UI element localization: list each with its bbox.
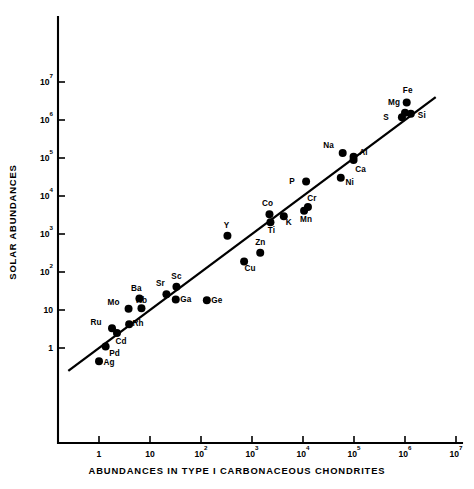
data-point-label-zn: Zn: [255, 238, 265, 247]
data-point-mg: [401, 109, 409, 117]
data-point-ba: [135, 295, 143, 303]
y-tick-exponent: 2: [50, 262, 54, 269]
data-point-rb: [137, 304, 145, 312]
data-points: AgPdCdRuRhMoRbBaSrScGaGeCuZnYTiCoKMnCrPN…: [90, 86, 425, 367]
y-tick-label: 105: [40, 148, 54, 164]
data-point-label-cd: Cd: [115, 337, 126, 346]
x-tick-label: 103: [245, 444, 259, 460]
data-point-label-mo: Mo: [108, 298, 120, 307]
y-axis-title: SOLAR ABUNDANCES: [7, 164, 18, 279]
y-tick-exponent: 3: [50, 224, 54, 231]
y-tick-exponent: 5: [50, 148, 54, 155]
axis-frame: [58, 17, 462, 443]
data-point-mo: [125, 305, 133, 313]
data-point-sr: [162, 290, 170, 298]
data-point-zn: [256, 249, 264, 257]
x-tick-exponent: 7: [459, 444, 463, 451]
data-point-label-ba: Ba: [131, 284, 142, 293]
data-point-label-sc: Sc: [171, 272, 182, 281]
data-point-fe: [403, 98, 411, 106]
y-tick-label: 103: [40, 224, 54, 240]
data-point-label-s: S: [383, 113, 389, 122]
data-point-p: [302, 178, 310, 186]
y-tick-label: 106: [40, 110, 54, 126]
data-point-cr: [304, 203, 312, 211]
data-point-y: [223, 232, 231, 240]
data-point-sc: [172, 283, 180, 291]
data-point-label-fe: Fe: [403, 86, 413, 95]
data-point-label-ge: Ge: [211, 296, 222, 305]
x-tick-exponent: 4: [306, 444, 310, 451]
x-tick-label: 104: [296, 444, 310, 460]
data-point-ga: [172, 295, 180, 303]
x-tick-label: 105: [347, 444, 361, 460]
y-tick-label: 1: [48, 343, 53, 353]
y-tick-exponent: 4: [50, 186, 54, 193]
y-tick-exponent: 7: [50, 72, 54, 79]
x-tick-exponent: 5: [357, 444, 361, 451]
trendline: [68, 97, 435, 371]
data-point-label-sr: Sr: [156, 279, 166, 288]
y-tick-exponent: 6: [50, 110, 54, 117]
data-point-label-si: Si: [418, 111, 426, 120]
data-point-na: [339, 149, 347, 157]
x-tick-exponent: 2: [204, 444, 208, 451]
data-point-label-pd: Pd: [109, 349, 120, 358]
data-point-ti: [266, 218, 274, 226]
x-tick-label: 10: [145, 449, 155, 459]
data-point-label-co: Co: [262, 199, 273, 208]
data-point-ru: [108, 324, 116, 332]
data-point-label-mg: Mg: [388, 98, 400, 107]
data-point-label-y: Y: [224, 221, 230, 230]
data-point-label-rh: Rh: [133, 319, 144, 328]
y-tick-label: 102: [40, 262, 54, 278]
data-point-label-mn: Mn: [300, 215, 312, 224]
x-tick-label: 106: [398, 444, 412, 460]
data-point-label-ru: Ru: [90, 318, 101, 327]
data-point-label-al: Al: [359, 148, 367, 157]
x-tick-exponent: 6: [408, 444, 412, 451]
data-point-co: [265, 210, 273, 218]
data-point-ag: [95, 357, 103, 365]
x-tick-exponent: 3: [255, 444, 259, 451]
data-point-label-ca: Ca: [355, 165, 366, 174]
data-point-ni: [337, 174, 345, 182]
axis-titles: ABUNDANCES IN TYPE I CARBONACEOUS CHONDR…: [7, 164, 385, 476]
data-point-label-ga: Ga: [180, 295, 191, 304]
data-point-label-cr: Cr: [307, 194, 317, 203]
y-tick-label: 107: [40, 72, 54, 88]
y-tick-label: 10: [43, 305, 53, 315]
x-axis-title: ABUNDANCES IN TYPE I CARBONACEOUS CHONDR…: [89, 465, 386, 476]
x-tick-label: 1: [97, 449, 102, 459]
axes: 1101021031041051061071101021031041051061…: [40, 17, 463, 459]
data-point-label-ag: Ag: [103, 358, 114, 367]
data-point-label-ni: Ni: [346, 178, 354, 187]
one-to-one-line: [68, 97, 435, 371]
x-tick-label: 102: [194, 444, 208, 460]
x-tick-label: 107: [449, 444, 463, 460]
y-tick-label: 104: [40, 186, 54, 202]
data-point-label-p: P: [289, 177, 295, 186]
data-point-ca: [350, 156, 358, 164]
data-point-ge: [203, 296, 211, 304]
data-point-label-ti: Ti: [268, 226, 275, 235]
data-point-label-cu: Cu: [245, 264, 256, 273]
data-point-label-k: K: [286, 218, 292, 227]
chart-figure: 1101021031041051061071101021031041051061…: [0, 0, 474, 489]
scatter-plot-svg: 1101021031041051061071101021031041051061…: [0, 0, 474, 489]
data-point-label-na: Na: [323, 141, 334, 150]
